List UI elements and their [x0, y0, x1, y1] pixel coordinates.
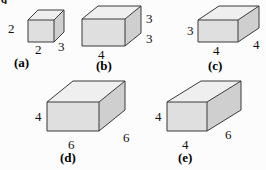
figure-a-caption: (a) — [14, 56, 29, 69]
figure-a-height-label: 2 — [8, 22, 15, 35]
figure-c-height-label: 3 — [187, 24, 194, 37]
figure-a-depth-label: 3 — [58, 40, 65, 53]
figure-c-depth-label: 4 — [253, 38, 260, 51]
box-d-drawing — [47, 81, 129, 137]
box-e-front-face — [167, 102, 207, 131]
figure-b — [82, 6, 148, 52]
figure-a — [28, 10, 72, 46]
figure-b-height-label: 3 — [146, 32, 153, 45]
box-b-drawing — [82, 6, 148, 52]
figure-panel: 9. 2 2 3 (a) 3 3 4 (b) 3 4 4 (c) — [0, 0, 266, 170]
figure-b-depth-top-label: 3 — [146, 12, 153, 25]
figure-a-width-label: 2 — [35, 43, 42, 56]
box-c-front-face — [198, 20, 238, 42]
figure-d-caption: (d) — [60, 151, 76, 164]
figure-d — [47, 81, 129, 137]
figure-c-width-label: 4 — [213, 44, 220, 57]
figure-c-caption: (c) — [208, 59, 222, 72]
box-a-drawing — [28, 10, 72, 46]
figure-d-depth-label: 6 — [123, 131, 130, 144]
box-a-front-face — [28, 20, 54, 42]
box-d-front-face — [47, 102, 99, 131]
figure-e-height-label: 4 — [155, 110, 162, 123]
box-e-drawing — [167, 81, 249, 137]
figure-e — [167, 81, 249, 137]
box-b-front-face — [82, 19, 125, 46]
figure-b-caption: (b) — [96, 59, 112, 72]
figure-e-depth-label: 6 — [225, 128, 232, 141]
figure-e-caption: (e) — [178, 151, 192, 164]
figure-d-height-label: 4 — [35, 110, 42, 123]
question-number: 9. — [1, 0, 10, 4]
